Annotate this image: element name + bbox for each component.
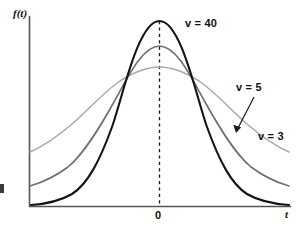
series-label-v5: v = 5 [236, 81, 262, 93]
series-label-v3: v = 3 [258, 130, 284, 142]
y-axis-label: f(t) [13, 7, 27, 19]
page-margin-artifact [0, 184, 4, 193]
v5-arrowhead [233, 125, 241, 133]
x-axis-tick-zero: 0 [155, 209, 161, 221]
distribution-figure: f(t) t 0 v = 40 v = 5 v = 3 [0, 0, 302, 227]
series-label-v40: v = 40 [185, 17, 217, 29]
plot-canvas [0, 0, 302, 227]
x-axis-label: t [285, 208, 288, 220]
